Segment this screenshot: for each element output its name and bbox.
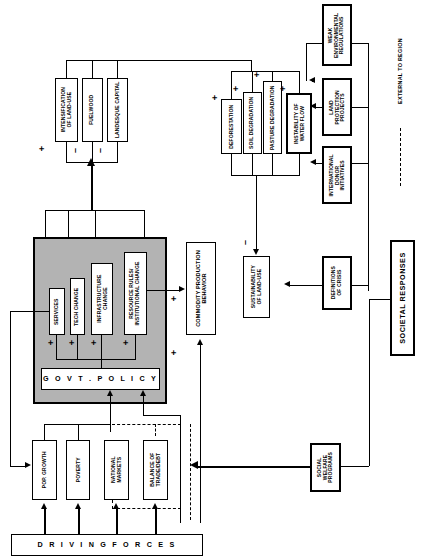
node-label: SUSTAINABILITYOF LAND-USE (251, 265, 262, 308)
edge-line (95, 210, 96, 238)
node-label: NATIONALMARKETS (111, 457, 122, 484)
sign-plus: + (170, 350, 179, 355)
edge-line (117, 60, 118, 78)
edge-line (352, 43, 369, 44)
edge-line (44, 424, 111, 425)
edge-line (352, 285, 369, 286)
node-intensification-of-land-use[interactable]: INTENSIFICATIONOF LAND-USE (55, 78, 78, 142)
sign-plus: + (211, 95, 220, 100)
sign-plus: + (170, 296, 179, 301)
sign-plus: + (38, 146, 47, 151)
edge-line (231, 154, 232, 176)
node-label: FUELWOOD (90, 95, 96, 125)
edge-line (135, 335, 136, 360)
sign-plus: + (122, 340, 131, 345)
edge-line (44, 509, 46, 535)
edge-line (306, 43, 323, 44)
edge-line (68, 210, 69, 238)
sign-plus: + (279, 86, 288, 91)
node-tech-change[interactable]: TECH CHANGE (70, 278, 85, 335)
edge-line (272, 71, 273, 81)
diagram-canvas: INTENSIFICATIONOF LAND-USE FUELWOOD LAND… (0, 0, 424, 560)
node-label: SERVICES (54, 298, 60, 324)
edge-line (77, 335, 78, 360)
arrowhead-left (284, 281, 290, 287)
edge-line (10, 466, 26, 467)
node-poverty[interactable]: POVERTY (66, 440, 90, 500)
node-label: PASTURE DEGRADATION (270, 85, 276, 150)
edge-line (155, 509, 157, 535)
arrowhead-left (190, 461, 198, 469)
edge-line (200, 345, 201, 523)
arrowhead-up (87, 158, 95, 166)
node-govt-policy[interactable]: G O V T . P O L I C Y (41, 368, 160, 390)
sign-plus: + (47, 340, 56, 345)
node-social-welfare-programs[interactable]: SOCIALWELFAREPROGRAMS (310, 443, 341, 492)
edge-line (256, 175, 257, 251)
edge-line (252, 154, 253, 176)
edge-line (231, 175, 300, 176)
arrowhead-up (152, 503, 158, 509)
node-commodity-production-behavior[interactable]: COMMODITY PRODUCTIONBEHAVIOR (186, 242, 216, 335)
node-label: DEFORESTATION (229, 105, 235, 149)
node-resource-rules-institutional-change[interactable]: RESOURCE RULES/INSTITUTIONAL CHANGE (124, 252, 147, 335)
node-sustainability-of-land-use[interactable]: SUSTAINABILITYOF LAND-USE (243, 256, 270, 318)
node-label: RESOURCE RULES/INSTITUTIONAL CHANGE (130, 261, 141, 325)
edge-line (78, 509, 80, 535)
dashed-edge (112, 424, 181, 425)
edge-line (315, 107, 322, 108)
node-land-protection-projects[interactable]: LANDPROTECTIONPROJECTS (322, 78, 352, 136)
edge-line (369, 299, 370, 466)
node-label: INSTABILITY OFWATER FLOW (293, 103, 304, 144)
node-label: G O V T . P O L I C Y (43, 375, 158, 383)
edge-line (101, 359, 102, 368)
node-label: SOCIALWELFAREPROGRAMS (317, 452, 334, 483)
arrowhead-right (25, 462, 31, 468)
edge-line (10, 311, 11, 466)
edge-line (341, 466, 369, 467)
node-international-donor-initiatives[interactable]: INTERNATIONALDONORINITIATIVES (322, 146, 352, 204)
edge-line (143, 396, 144, 416)
node-label: LANDESQUE CAPITAL (115, 82, 121, 139)
node-definitions-of-crisis[interactable]: DEFINITIONSOF CRISIS (322, 256, 352, 310)
edge-line (56, 335, 57, 360)
label-societal-responses: SOCIETAL RESPONSES (390, 240, 415, 356)
node-deforestation[interactable]: DEFORESTATION (221, 99, 242, 154)
node-weak-environmental-regulations[interactable]: WEAKENVIRONMENTALREGULATIONS (322, 4, 352, 66)
edge-line (272, 154, 273, 176)
node-label: DEFINITIONSOF CRISIS (331, 266, 342, 299)
edge-line (91, 162, 93, 210)
node-label: LANDPROTECTIONPROJECTS (329, 90, 346, 124)
node-fuelwood[interactable]: FUELWOOD (82, 78, 103, 142)
node-services[interactable]: SERVICES (49, 288, 65, 335)
edge-line (315, 163, 322, 164)
node-landesque-capital[interactable]: LANDESQUE CAPITAL (107, 78, 128, 142)
node-national-markets[interactable]: NATIONALMARKETS (104, 440, 129, 500)
node-label: INTERNATIONALDONORINITIATIVES (329, 154, 346, 196)
dashed-edge (180, 424, 181, 509)
node-instability-of-water-flow[interactable]: INSTABILITY OFWATER FLOW (286, 93, 312, 154)
node-label: POP. GROWTH (42, 451, 48, 488)
edge-line (299, 154, 300, 176)
edge-line (66, 60, 252, 61)
edge-line (352, 163, 369, 164)
sign-plus: + (253, 72, 262, 77)
dashed-edge (112, 508, 181, 509)
dashed-edge (190, 424, 191, 520)
node-balance-of-trade-debt[interactable]: BALANCE OFTRADE/DEBT (143, 440, 168, 500)
arrowhead-up (107, 390, 113, 396)
node-pasture-degradation[interactable]: PASTURE DEGRADATION (263, 81, 282, 154)
node-label: POVERTY (75, 458, 81, 483)
edge-line (66, 60, 67, 78)
node-soil-degradation[interactable]: SOIL DEGRADATION (243, 92, 262, 154)
sign-plus: + (68, 340, 77, 345)
sign-plus: + (232, 86, 241, 91)
edge-line (44, 424, 45, 440)
arrowhead-up (197, 339, 203, 345)
node-label: BALANCE OFTRADE/DEBT (150, 453, 161, 487)
node-infrastructure-change[interactable]: INFRASTRUCTURECHANGE (91, 263, 113, 335)
edge-line (290, 285, 322, 286)
node-label: COMMODITY PRODUCTIONBEHAVIOR (195, 250, 208, 327)
edge-line (143, 415, 181, 416)
node-pop-growth[interactable]: POP. GROWTH (32, 440, 57, 500)
